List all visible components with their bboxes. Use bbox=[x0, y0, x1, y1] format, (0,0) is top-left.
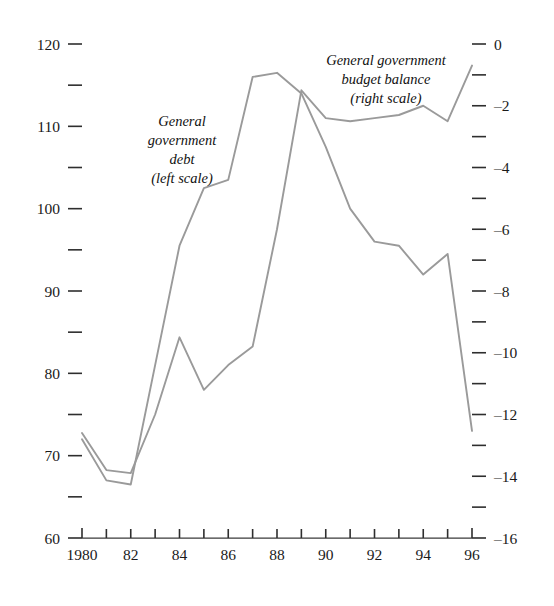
x-axis-tick-label: 88 bbox=[269, 546, 285, 563]
right-axis: –16–14–12–10–8–6–4–20 bbox=[472, 36, 518, 547]
debt-annotation-line-3: debt bbox=[170, 151, 196, 167]
left-axis-tick-label: 100 bbox=[37, 200, 61, 217]
left-axis-tick-label: 60 bbox=[45, 530, 61, 547]
right-axis-tick-label: –6 bbox=[493, 221, 510, 238]
right-axis-tick-label: 0 bbox=[494, 36, 502, 53]
debt-annotation-line-4: (left scale) bbox=[151, 170, 213, 187]
chart-figure: 60708090100110120 –16–14–12–10–8–6–4–20 … bbox=[0, 0, 554, 606]
balance-series-annotation: General government budget balance (right… bbox=[326, 52, 447, 107]
debt-annotation-line-1: General bbox=[158, 113, 206, 129]
x-axis-tick-label: 86 bbox=[221, 546, 237, 563]
x-axis: 19808284868890929496 bbox=[67, 528, 481, 563]
left-axis: 60708090100110120 bbox=[37, 36, 82, 547]
left-axis-tick-label: 90 bbox=[45, 283, 61, 300]
left-axis-tick-label: 80 bbox=[45, 365, 61, 382]
balance-annotation-line-3: (right scale) bbox=[350, 90, 421, 107]
right-axis-tick-label: –12 bbox=[493, 406, 517, 423]
left-axis-tick-label: 110 bbox=[37, 118, 60, 135]
x-axis-tick-label: 82 bbox=[123, 546, 139, 563]
left-axis-tick-label: 70 bbox=[45, 447, 61, 464]
right-axis-tick-label: –14 bbox=[493, 468, 518, 485]
left-axis-tick-label: 120 bbox=[37, 36, 61, 53]
right-axis-tick-label: –2 bbox=[493, 97, 510, 114]
debt-series-annotation: General government debt (left scale) bbox=[148, 113, 217, 187]
right-axis-tick-label: –16 bbox=[493, 530, 518, 547]
x-axis-tick-label: 84 bbox=[172, 546, 188, 563]
balance-series-line bbox=[82, 66, 472, 474]
debt-series-line bbox=[82, 73, 472, 485]
balance-annotation-line-2: budget balance bbox=[342, 71, 432, 87]
x-axis-tick-label: 92 bbox=[367, 546, 383, 563]
right-axis-tick-label: –8 bbox=[493, 283, 510, 300]
debt-annotation-line-2: government bbox=[148, 132, 217, 148]
right-axis-tick-label: –10 bbox=[493, 344, 518, 361]
x-axis-tick-label: 90 bbox=[318, 546, 334, 563]
right-axis-tick-label: –4 bbox=[493, 159, 510, 176]
x-axis-tick-label: 94 bbox=[416, 546, 432, 563]
x-axis-tick-label: 96 bbox=[464, 546, 480, 563]
chart-container: 60708090100110120 –16–14–12–10–8–6–4–20 … bbox=[0, 0, 554, 606]
x-axis-tick-label: 1980 bbox=[67, 546, 98, 563]
balance-annotation-line-1: General government bbox=[326, 52, 447, 68]
